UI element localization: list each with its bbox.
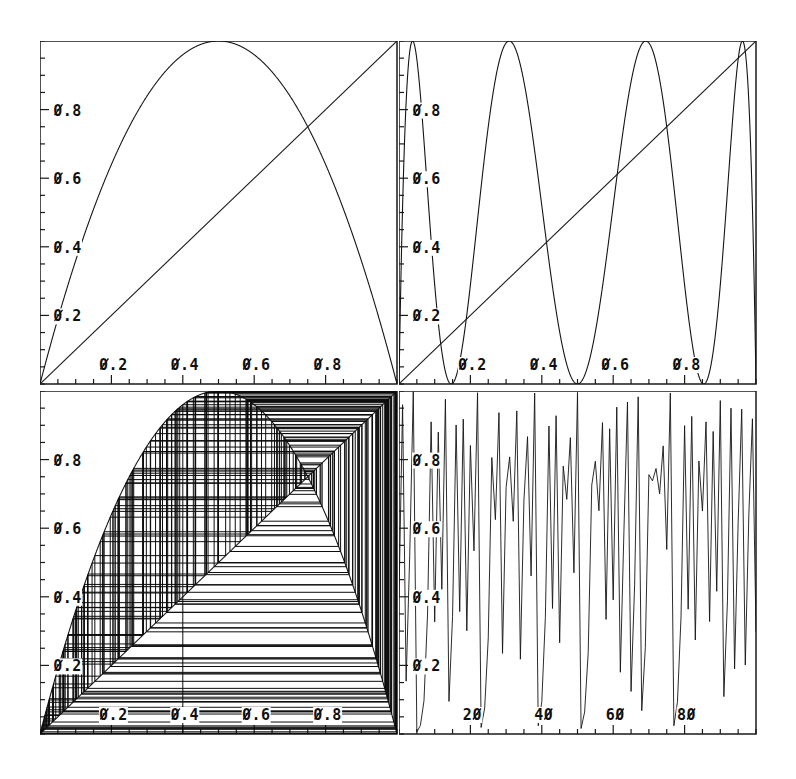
identity-line-map-f3 <box>399 41 756 384</box>
panel-svg-map-f3: 0.20.40.60.80.20.40.60.8 <box>399 41 796 444</box>
x-tick-label-timeseries-2: 60 <box>605 706 625 724</box>
data-layer-cobweb <box>40 391 397 734</box>
x-tick-label-map-f1-3: 0.8 <box>313 356 342 374</box>
x-tick-label-cobweb-1: 0.4 <box>170 706 199 724</box>
plot-frame-timeseries <box>399 391 756 734</box>
tick-labels-cobweb: 0.20.40.60.80.20.40.60.8 <box>53 452 342 724</box>
tick-labels-map-f3: 0.20.40.60.80.20.40.60.8 <box>412 102 701 374</box>
y-tick-label-cobweb-2: 0.6 <box>53 520 82 538</box>
logistic-map-figure: 0.20.40.60.80.20.40.60.8 0.20.40.60.80.2… <box>0 0 796 779</box>
axis-ticks-timeseries <box>399 391 756 734</box>
x-tick-label-map-f1-1: 0.4 <box>170 356 199 374</box>
y-tick-label-map-f3-0: 0.2 <box>412 307 441 325</box>
y-tick-label-map-f3-1: 0.4 <box>412 239 441 257</box>
svg-text:20: 20 <box>463 706 482 724</box>
x-tick-label-map-f3-0: 0.2 <box>458 356 487 374</box>
y-tick-label-map-f1-0: 0.2 <box>53 307 82 325</box>
x-tick-label-timeseries-0: 20 <box>462 706 482 724</box>
x-tick-label-map-f1-0: 0.2 <box>99 356 128 374</box>
panel-svg-timeseries: 204060800.20.40.60.8 <box>399 391 796 779</box>
tick-labels-map-f1: 0.20.40.60.80.20.40.60.8 <box>53 102 342 374</box>
y-tick-label-timeseries-2: 0.6 <box>412 520 441 538</box>
svg-text:80: 80 <box>677 706 696 724</box>
y-tick-label-map-f1-1: 0.4 <box>53 239 82 257</box>
panel-logistic-map-f3: 0.20.40.60.80.20.40.60.8 <box>399 41 796 444</box>
x-tick-label-cobweb-3: 0.8 <box>313 706 342 724</box>
panel-svg-cobweb: 0.20.40.60.80.20.40.60.8 <box>40 391 457 779</box>
y-tick-label-map-f3-2: 0.6 <box>412 170 441 188</box>
y-tick-label-cobweb-3: 0.8 <box>53 452 82 470</box>
x-tick-label-map-f1-2: 0.6 <box>242 356 271 374</box>
svg-text:60: 60 <box>606 706 625 724</box>
x-tick-label-timeseries-1: 40 <box>534 706 554 724</box>
y-tick-label-cobweb-0: 0.2 <box>53 657 82 675</box>
panel-svg-map-f1: 0.20.40.60.80.20.40.60.8 <box>40 41 457 444</box>
x-tick-label-map-f3-2: 0.6 <box>601 356 630 374</box>
y-tick-label-map-f3-3: 0.8 <box>412 102 441 120</box>
y-tick-label-timeseries-1: 0.4 <box>412 589 441 607</box>
x-tick-label-cobweb-2: 0.6 <box>242 706 271 724</box>
x-tick-label-map-f3-1: 0.4 <box>529 356 558 374</box>
data-layer-timeseries <box>399 392 756 732</box>
svg-text:40: 40 <box>534 706 553 724</box>
y-tick-label-timeseries-0: 0.2 <box>412 657 441 675</box>
panel-logistic-map-f1: 0.20.40.60.80.20.40.60.8 <box>40 41 457 444</box>
y-tick-label-timeseries-3: 0.8 <box>412 452 441 470</box>
identity-line-map-f1 <box>40 41 397 384</box>
x-tick-label-timeseries-3: 80 <box>677 706 697 724</box>
y-tick-label-map-f1-2: 0.6 <box>53 170 82 188</box>
panel-time-series: 204060800.20.40.60.8 <box>399 391 796 779</box>
x-tick-label-cobweb-0: 0.2 <box>99 706 128 724</box>
y-tick-label-map-f1-3: 0.8 <box>53 102 82 120</box>
data-layer-map-f3 <box>399 41 756 384</box>
panel-cobweb-diagram: 0.20.40.60.80.20.40.60.8 <box>40 391 457 779</box>
y-tick-label-cobweb-1: 0.4 <box>53 589 82 607</box>
orbit-series-line <box>399 392 756 732</box>
x-tick-label-map-f3-3: 0.8 <box>672 356 701 374</box>
data-layer-map-f1 <box>40 41 397 384</box>
